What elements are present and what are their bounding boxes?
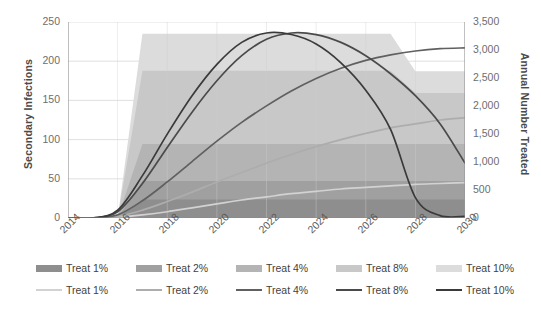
y-axis-left-tick-label: 250 — [30, 15, 60, 27]
legend-label: Treat 1% — [66, 262, 108, 274]
legend-item-area[interactable]: Treat 2% — [136, 262, 208, 274]
y-axis-left-tick-label: 0 — [30, 211, 60, 223]
x-axis-tick-label: 2014 — [57, 210, 82, 235]
y-axis-right-tick-label: 0 — [473, 211, 511, 223]
legend-label: Treat 4% — [266, 284, 308, 296]
legend-label: Treat 10% — [466, 262, 514, 274]
legend-label: Treat 2% — [166, 262, 208, 274]
legend-swatch-line — [336, 289, 362, 291]
y-axis-right-tick-label: 3,000 — [473, 43, 511, 55]
chart-legend: Treat 1%Treat 2%Treat 4%Treat 8%Treat 10… — [28, 257, 520, 305]
y-axis-right-tick-label: 2,500 — [473, 71, 511, 83]
legend-item-line[interactable]: Treat 8% — [336, 284, 408, 296]
legend-swatch-area — [36, 265, 62, 272]
chart-container: Secondary Infections Annual Number Treat… — [0, 0, 541, 309]
legend-label: Treat 8% — [366, 284, 408, 296]
legend-swatch-area — [236, 265, 262, 272]
legend-label: Treat 4% — [266, 262, 308, 274]
y-axis-left-tick-label: 150 — [30, 93, 60, 105]
y-axis-left-tick-label: 200 — [30, 54, 60, 66]
legend-label: Treat 2% — [166, 284, 208, 296]
legend-item-area[interactable]: Treat 4% — [236, 262, 308, 274]
legend-label: Treat 1% — [66, 284, 108, 296]
y-axis-right-tick-label: 1,500 — [473, 127, 511, 139]
legend-item-area[interactable]: Treat 10% — [436, 262, 514, 274]
legend-row-lines: Treat 1%Treat 2%Treat 4%Treat 8%Treat 10… — [28, 279, 520, 301]
legend-item-line[interactable]: Treat 10% — [436, 284, 514, 296]
y-axis-right-title: Annual Number Treated — [519, 24, 531, 204]
legend-item-line[interactable]: Treat 4% — [236, 284, 308, 296]
legend-item-area[interactable]: Treat 8% — [336, 262, 408, 274]
legend-swatch-line — [36, 289, 62, 291]
plot-area — [68, 22, 465, 218]
legend-swatch-line — [436, 289, 462, 291]
y-axis-right-tick-label: 3,500 — [473, 15, 511, 27]
legend-swatch-line — [136, 289, 162, 291]
legend-swatch-area — [336, 265, 362, 272]
legend-item-line[interactable]: Treat 2% — [136, 284, 208, 296]
legend-item-line[interactable]: Treat 1% — [36, 284, 108, 296]
y-axis-right-tick-label: 1,000 — [473, 155, 511, 167]
y-axis-left-tick-label: 100 — [30, 133, 60, 145]
y-axis-left-tick-label: 50 — [30, 172, 60, 184]
legend-label: Treat 8% — [366, 262, 408, 274]
y-axis-right-tick-label: 500 — [473, 183, 511, 195]
legend-swatch-area — [436, 265, 462, 272]
legend-swatch-line — [236, 289, 262, 291]
plot-svg — [68, 22, 465, 218]
legend-item-area[interactable]: Treat 1% — [36, 262, 108, 274]
legend-swatch-area — [136, 265, 162, 272]
legend-label: Treat 10% — [466, 284, 514, 296]
legend-row-areas: Treat 1%Treat 2%Treat 4%Treat 8%Treat 10… — [28, 257, 520, 279]
y-axis-right-tick-label: 2,000 — [473, 99, 511, 111]
